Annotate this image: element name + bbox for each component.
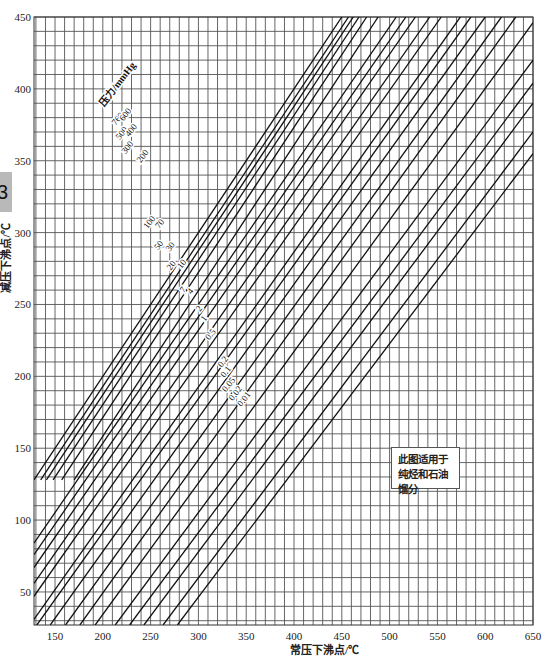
y-tick-label: 150	[15, 442, 32, 454]
pressure-curve-0.05	[144, 103, 533, 625]
curve-label: 0.5	[203, 326, 218, 341]
curves	[34, 17, 533, 625]
x-tick-label: 650	[525, 630, 542, 642]
y-tick-label: 50	[20, 586, 32, 598]
y-tick-label: 350	[15, 155, 32, 167]
pressure-curve-7	[37, 17, 471, 625]
boiling-point-nomograph: 760600500400300200100705030201074210.50.…	[0, 0, 547, 657]
x-tick-label: 200	[95, 630, 112, 642]
x-tick-label: 550	[429, 630, 446, 642]
y-axis-label: 减压下沸点/℃	[0, 223, 12, 292]
pressure-curve-1	[80, 17, 516, 625]
x-tick-label: 450	[334, 630, 351, 642]
pressure-curve-70	[34, 17, 406, 555]
y-tick-label: 300	[15, 227, 32, 239]
y-tick-label: 400	[15, 83, 32, 95]
pressure-curve-0.1	[130, 83, 533, 625]
pressure-curve-50	[34, 17, 415, 568]
x-tick-label: 300	[190, 630, 207, 642]
pressure-curve-0.02	[163, 132, 533, 625]
pressure-curve-2	[66, 17, 502, 625]
x-axis-label: 常压下沸点/℃	[290, 643, 359, 656]
pressure-curve-500	[46, 17, 353, 480]
x-tick-label: 400	[286, 630, 303, 642]
curve-label: 50	[152, 238, 166, 252]
x-tick-label: 600	[477, 630, 494, 642]
y-tick-label: 450	[15, 11, 32, 23]
y-tick-label: 100	[15, 514, 32, 526]
curve-label: 200	[134, 147, 150, 164]
y-tick-label: 250	[15, 298, 32, 310]
applicability-note: 此图适用于纯烃和石油馏分	[391, 447, 460, 489]
x-tick-label: 500	[381, 630, 398, 642]
pressure-curve-10	[34, 17, 460, 619]
curve-label: 30	[164, 240, 178, 254]
y-tick-label: 200	[15, 370, 32, 382]
pressure-curve-0.2	[115, 60, 533, 625]
x-tick-label: 350	[238, 630, 255, 642]
curve-label: 4	[185, 286, 196, 296]
pressure-curve-600	[41, 17, 349, 480]
x-tick-label: 250	[142, 630, 159, 642]
pressure-curve-4	[50, 17, 485, 625]
x-tick-label: 150	[47, 630, 64, 642]
pressure-curve-760	[34, 17, 342, 480]
